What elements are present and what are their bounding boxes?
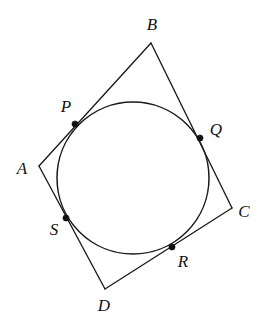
geometry-figure: A B C D P Q R S: [0, 0, 267, 332]
tangent-dot-P: [72, 121, 78, 127]
tangent-dot-Q: [197, 135, 203, 141]
tangent-label-R: R: [178, 253, 188, 270]
quadrilateral-sides: [39, 43, 232, 289]
vertex-label-D: D: [98, 297, 110, 314]
inscribed-circle: [57, 102, 209, 254]
tangent-dot-S: [63, 215, 69, 221]
vertex-label-B: B: [147, 16, 157, 33]
tangent-label-Q: Q: [210, 121, 222, 138]
vertex-label-A: A: [17, 160, 27, 177]
tangent-label-P: P: [61, 98, 71, 115]
tangent-dot-R: [169, 244, 175, 250]
tangent-label-S: S: [50, 221, 59, 238]
side-CD: [105, 208, 232, 289]
side-AB: [39, 43, 151, 166]
vertex-label-C: C: [238, 203, 249, 220]
figure-canvas: [0, 0, 267, 332]
tangent-point-dots: [63, 121, 203, 250]
